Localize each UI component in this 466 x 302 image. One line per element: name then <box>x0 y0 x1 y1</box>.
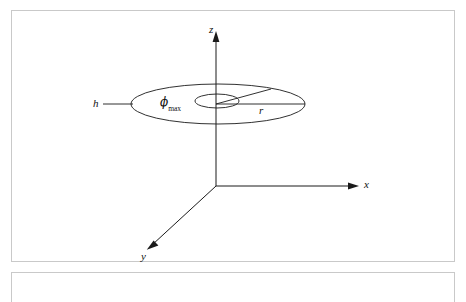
phi-symbol: ϕ <box>160 95 168 109</box>
z-axis-label: z <box>209 24 213 35</box>
next-figure-frame-box <box>11 272 455 302</box>
phi-subscript-max: max <box>168 104 181 113</box>
figure-frame-box <box>11 10 455 262</box>
radius-label-r: r <box>259 105 263 116</box>
x-axis-label: x <box>364 179 369 190</box>
height-label-h: h <box>93 98 99 109</box>
y-axis-label: y <box>141 251 146 262</box>
phi-max-label: ϕmax <box>160 96 181 111</box>
